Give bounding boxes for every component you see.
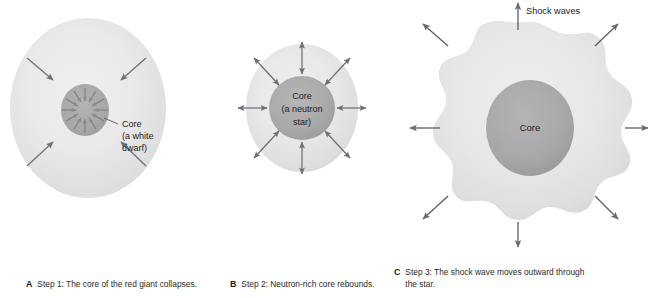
panel-b-illustration: Core (a neutron star) [216,0,390,258]
panel-b-core-rebound: Core (a neutron star) B Step 2: Neutron-… [216,0,390,298]
panel-b-letter: B [230,279,236,291]
core-label-b: Core [292,91,312,101]
panel-a-illustration: Core (a white dwarf) [0,0,216,258]
panel-a-caption-text: Step 1: The core of the red giant collap… [37,279,197,291]
panel-a-stage: Core (a white dwarf) [0,0,216,258]
panel-c-caption: C Step 3: The shock wave moves outward t… [390,267,652,290]
panel-c-stage: Core Shock waves [390,0,648,258]
panel-c-illustration: Core Shock waves [390,0,648,258]
core-sublabel-b-line2: star) [293,117,311,127]
panel-c-letter: C [394,267,400,279]
core-sublabel-a-line2: dwarf) [122,143,147,153]
panel-c-caption-text: Step 3: The shock wave moves outward thr… [405,267,595,290]
core-label-c: Core [520,122,541,133]
panel-b-caption: B Step 2: Neutron-rich core rebounds. [216,279,404,291]
panel-c-shock-wave: Core Shock waves C Step 3: The shock wav… [390,0,648,298]
core-sublabel-a-line1: (a white [122,131,154,141]
core-sublabel-b-line1: (a neutron [281,104,322,114]
panel-b-caption-text: Step 2: Neutron-rich core rebounds. [241,279,401,291]
core-label-a: Core [122,119,142,129]
panel-a-letter: A [26,279,32,291]
panel-a-red-giant-collapse: Core (a white dwarf) A Step 1: The core … [0,0,216,298]
panel-b-stage: Core (a neutron star) [216,0,390,258]
panel-a-caption: A Step 1: The core of the red giant coll… [0,279,242,291]
shock-waves-label: Shock waves [526,6,581,16]
